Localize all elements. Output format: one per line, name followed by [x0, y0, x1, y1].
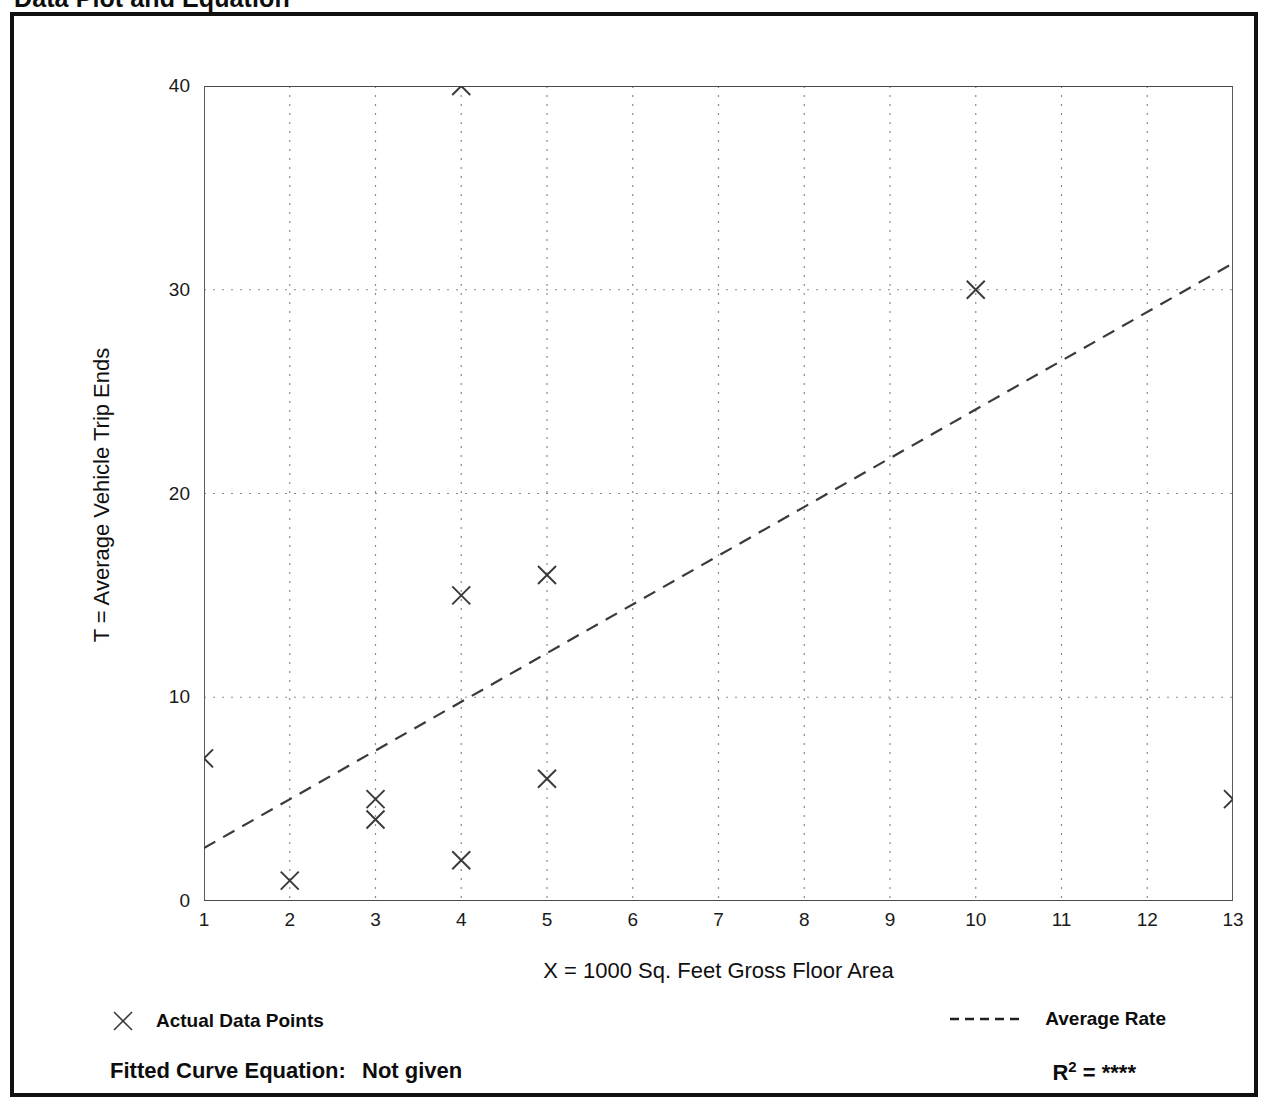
x-axis-tick-label: 5 [542, 909, 553, 931]
data-point-marker [367, 790, 385, 808]
x-axis-tick-label: 4 [456, 909, 467, 931]
plot-area [204, 86, 1233, 901]
x-axis-tick-label: 13 [1222, 909, 1243, 931]
y-axis-tick-label: 0 [179, 890, 190, 912]
y-axis-tick-label: 10 [169, 686, 190, 708]
x-axis-tick-label: 7 [713, 909, 724, 931]
data-point-marker [452, 86, 470, 95]
chart-footer: Fitted Curve Equation: Not given R2 = **… [14, 1058, 1262, 1102]
legend-item-average-rate: Average Rate [949, 1008, 1166, 1030]
x-axis-tick-label: 12 [1137, 909, 1158, 931]
x-axis-tick-label: 2 [284, 909, 295, 931]
y-axis-tick-label: 30 [169, 279, 190, 301]
x-marker-icon [110, 1008, 136, 1034]
fitted-curve-equation-label: Fitted Curve Equation: [110, 1058, 346, 1083]
y-axis-title: T = Average Vehicle Trip Ends [89, 175, 115, 815]
figure-frame: 010203040 12345678910111213 X = 1000 Sq.… [10, 12, 1258, 1097]
scatter-plot-svg [204, 86, 1233, 901]
x-axis-tick-label: 9 [885, 909, 896, 931]
data-point-marker [1224, 790, 1233, 808]
legend-label-average-rate: Average Rate [1045, 1008, 1166, 1030]
data-point-marker [204, 749, 213, 767]
x-axis-tick-label: 8 [799, 909, 810, 931]
y-axis-tick-label: 20 [169, 483, 190, 505]
r-squared-exponent: 2 [1068, 1058, 1076, 1075]
x-axis-tick-label: 3 [370, 909, 381, 931]
legend-item-actual-data-points: Actual Data Points [110, 1008, 324, 1034]
y-axis-tick-labels: 010203040 [134, 86, 190, 901]
legend-label-actual-data-points: Actual Data Points [156, 1010, 324, 1032]
x-axis-tick-label: 1 [199, 909, 210, 931]
r-squared-label: R [1052, 1060, 1068, 1085]
data-point-marker [538, 770, 556, 788]
x-axis-tick-label: 6 [627, 909, 638, 931]
r-squared-statistic: R2 = **** [1052, 1058, 1136, 1086]
fitted-curve-equation-value: Not given [362, 1058, 462, 1083]
data-point-marker [281, 872, 299, 890]
dashed-line-icon [949, 1012, 1025, 1026]
chart-legend: Actual Data Points Average Rate [14, 1008, 1262, 1048]
x-axis-tick-label: 10 [965, 909, 986, 931]
x-axis-tick-label: 11 [1052, 909, 1072, 931]
fitted-curve-equation: Fitted Curve Equation: Not given [110, 1058, 462, 1084]
r-squared-equals: = [1083, 1060, 1096, 1085]
r-squared-value: **** [1102, 1060, 1136, 1085]
data-point-marker [452, 851, 470, 869]
x-axis-title: X = 1000 Sq. Feet Gross Floor Area [204, 958, 1233, 984]
y-axis-tick-label: 40 [169, 75, 190, 97]
x-axis-tick-labels: 12345678910111213 [204, 909, 1233, 935]
data-point-marker [452, 586, 470, 604]
